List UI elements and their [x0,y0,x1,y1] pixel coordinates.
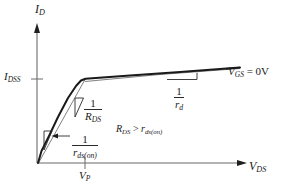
slope-rdson-denominator: rds(on) [72,147,98,158]
slope-rdson-den-sub: ds(on) [77,151,97,160]
x-axis-arrowhead [237,160,247,166]
drain-characteristic-curve [38,68,240,164]
slope-rds-denominator: RDS [84,111,102,122]
vp-label-main: V [79,169,86,181]
comparison-operator: > [130,123,141,134]
resistance-comparison-annotation: RDS > rds(on) [116,124,162,134]
comparison-left-sub: DS [122,128,130,135]
x-axis-label-sub: DS [256,165,266,174]
vgs-label-sub: GS [235,70,244,79]
slope-rds-den-main: R [85,110,92,122]
slope-rd-denominator: rd [174,99,184,110]
vgs-label-value: = 0V [244,65,269,77]
x-tick-label-vp: VP [79,170,90,181]
rds-slope-triangle [75,98,84,117]
slope-rdson-numerator: 1 [72,134,98,145]
comparison-right-sub: ds(on) [145,128,162,135]
vgs-label-main: V [228,65,235,77]
slope-rds-den-sub: DS [92,115,101,124]
characteristic-curve-group [38,68,240,164]
y-axis-label-sub: D [39,8,45,17]
y-axis-label: ID [35,3,45,15]
slope-label-rds: 1 RDS [84,98,102,122]
chart-canvas [0,0,282,193]
slope-rd-den-sub: d [179,103,183,112]
slope-label-rd: 1 rd [174,86,184,110]
y-axis-arrowhead [34,23,40,33]
slope-label-rdson: 1 rds(on) [72,134,98,158]
slope-rd-numerator: 1 [174,86,184,97]
vgs-annotation: VGS = 0V [228,66,269,77]
x-axis-label: VDS [249,160,266,172]
idss-label-sub: DSS [8,75,21,84]
reference-lines-group [39,69,241,164]
saturation-reference-line [85,69,240,82]
axes-group [31,23,247,169]
jfet-drain-characteristic-figure: ID VDS IDSS VP VGS = 0V RDS > rds(on) 1 … [0,0,282,193]
y-tick-label-idss: IDSS [4,71,21,82]
vp-label-sub: P [86,174,91,183]
slope-rds-numerator: 1 [84,98,102,109]
